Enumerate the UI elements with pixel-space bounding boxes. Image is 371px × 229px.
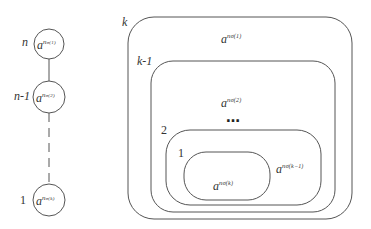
set-box-term-2: anσ(k−1)	[276, 163, 304, 177]
set-box-term-1: anσ(k)	[213, 180, 233, 194]
set-box-k-minus-1	[151, 61, 335, 212]
chain-node-term-2: anσ(2)	[36, 92, 55, 107]
chain-node-label-2: n-1	[14, 90, 30, 102]
diagram-canvas	[0, 0, 371, 229]
chain-node-term-1: anσ(1)	[37, 39, 56, 54]
set-box-label-2: 2	[161, 124, 167, 136]
chain-node-label-1: n	[22, 36, 28, 48]
set-box-term-k: anσ(1)	[221, 33, 241, 47]
chain-node-term-3: anσ(k)	[36, 195, 55, 210]
set-box-label-1: 1	[178, 147, 184, 159]
set-box-label-k: k	[122, 16, 127, 28]
ellipsis: …	[226, 112, 242, 122]
chain-node-label-3: 1	[20, 194, 26, 206]
set-box-label-k-minus-1: k-1	[137, 55, 152, 67]
